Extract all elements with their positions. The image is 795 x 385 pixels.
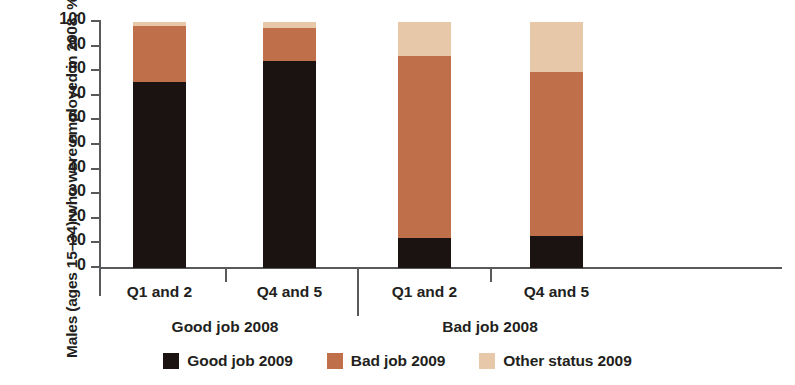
x-axis-category-label: Q1 and 2 [100,283,220,301]
plot-area: 1009080706050403020100 [100,22,782,268]
bar-segment[interactable] [398,56,451,238]
y-axis-tick-label: 30 [68,181,86,201]
y-axis-tick: 50 [91,143,100,145]
group-divider [357,269,359,316]
bar-segment[interactable] [398,238,451,268]
y-axis-tick-label: 70 [68,83,86,103]
y-axis-tick-label: 40 [68,157,86,177]
stacked-bar-chart-figure: Males (ages 15–34) who were employed in … [0,0,795,385]
legend-item[interactable]: Bad job 2009 [327,352,445,370]
bar-segment[interactable] [263,61,316,268]
bar-segment[interactable] [530,72,583,236]
y-axis-tick: 80 [91,69,100,71]
y-axis-tick-label: 50 [68,132,86,152]
y-axis-tick: 100 [91,20,100,22]
legend-swatch-icon [163,353,179,369]
y-axis-tick-label: 90 [68,34,86,54]
y-axis-tick: 60 [91,118,100,120]
bar-segment[interactable] [530,22,583,72]
bar-segment[interactable] [133,82,186,268]
bar-segment[interactable] [530,236,583,268]
x-axis-group-label: Bad job 2008 [380,318,600,336]
legend-label: Other status 2009 [503,352,631,370]
y-axis-tick: 70 [91,94,100,96]
y-axis-tick: 0 [91,266,100,268]
y-axis-tick-label: 20 [68,206,86,226]
y-axis-tick: 90 [91,45,100,47]
x-axis-group-label: Good job 2008 [115,318,335,336]
x-axis-category-label: Q4 and 5 [230,283,350,301]
legend-label: Good job 2009 [187,352,293,370]
y-axis-tick-label: 0 [77,255,86,275]
bar-segment[interactable] [263,28,316,61]
x-axis-category-label: Q4 and 5 [497,283,617,301]
y-axis-tick: 10 [91,241,100,243]
bar-segment[interactable] [133,26,186,83]
bar-segment[interactable] [398,22,451,56]
legend-item[interactable]: Other status 2009 [479,352,631,370]
bar-stack[interactable] [263,22,316,268]
y-axis-tick-label: 100 [59,9,86,29]
x-axis-category-label: Q1 and 2 [365,283,485,301]
y-axis-tick-label: 60 [68,107,86,127]
bar-segment[interactable] [263,22,316,28]
y-axis-tick-label: 80 [68,58,86,78]
x-axis-tick [490,269,492,282]
bar-stack[interactable] [398,22,451,268]
y-axis-tick: 40 [91,168,100,170]
x-axis-tick [225,269,227,282]
y-axis-tick: 30 [91,192,100,194]
legend-swatch-icon [327,353,343,369]
chart-legend: Good job 2009Bad job 2009Other status 20… [0,352,795,370]
legend-label: Bad job 2009 [351,352,445,370]
bar-segment[interactable] [133,22,186,26]
y-axis-tick-label: 10 [68,230,86,250]
bar-stack[interactable] [133,22,186,268]
legend-swatch-icon [479,353,495,369]
legend-item[interactable]: Good job 2009 [163,352,293,370]
bar-stack[interactable] [530,22,583,268]
y-axis-tick: 20 [91,217,100,219]
